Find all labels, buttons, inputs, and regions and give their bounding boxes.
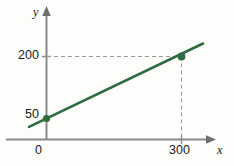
plot-canvas: [0, 0, 234, 166]
origin-tick-label: 0: [35, 144, 42, 157]
y-tick-label-200: 200: [18, 49, 39, 62]
data-point-300-200: [178, 53, 186, 61]
graph-figure: y x 200 50 0 300: [0, 0, 234, 166]
data-point-0-50: [43, 115, 50, 122]
y-axis-label: y: [33, 6, 39, 19]
data-line: [29, 44, 203, 127]
x-axis-label: x: [217, 144, 223, 157]
x-tick-label-300: 300: [169, 144, 190, 157]
y-axis-arrowhead: [42, 6, 51, 16]
y-tick-label-50: 50: [25, 108, 39, 121]
x-axis-arrowhead: [206, 135, 216, 144]
